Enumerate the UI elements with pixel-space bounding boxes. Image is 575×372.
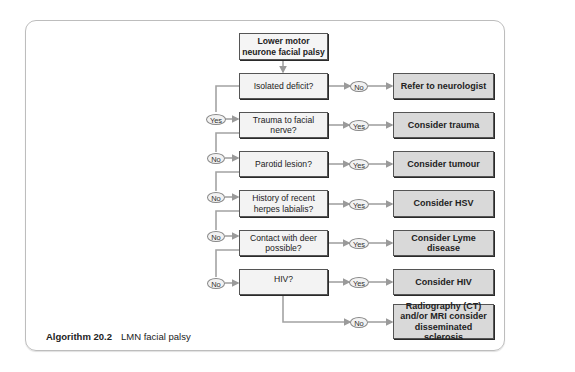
question-isolated-deficit: Isolated deficit? xyxy=(239,73,328,99)
question-label: Parotid lesion? xyxy=(255,159,312,170)
answer-yes-pill: Yes xyxy=(349,238,369,249)
answer-yes-pill: Yes xyxy=(349,277,369,288)
outcome-label: Consider trauma xyxy=(408,120,480,131)
outcome-label: Consider tumour xyxy=(407,159,480,170)
outcome-lyme-disease: Consider Lyme disease xyxy=(393,230,494,256)
answer-no-pill: No xyxy=(350,81,368,92)
question-label: HIV? xyxy=(274,274,293,285)
outcome-hiv: Consider HIV xyxy=(393,269,494,295)
outcome-trauma: Consider trauma xyxy=(393,112,494,138)
answer-yes-pill: Yes xyxy=(206,114,226,125)
outcome-label: Refer to neurologist xyxy=(401,81,487,92)
answer-no-pill: No xyxy=(350,317,368,328)
outcome-hsv: Consider HSV xyxy=(393,190,494,217)
outcome-refer-neurologist: Refer to neurologist xyxy=(393,73,494,99)
outcome-label: Radiography (CT) and/or MRI consider dis… xyxy=(397,301,490,343)
figure-caption: Algorithm 20.2LMN facial palsy xyxy=(46,331,191,342)
question-deer-contact: Contact with deer possible? xyxy=(239,230,328,256)
answer-no-pill: No xyxy=(207,192,225,203)
outcome-label: Consider Lyme disease xyxy=(394,233,493,254)
question-hiv: HIV? xyxy=(239,269,328,295)
outcome-tumour: Consider tumour xyxy=(393,151,494,177)
outcome-label: Consider HSV xyxy=(413,198,473,209)
answer-yes-pill: Yes xyxy=(349,159,369,170)
caption-label: Algorithm 20.2 xyxy=(46,331,112,342)
answer-yes-pill: Yes xyxy=(349,120,369,131)
answer-no-pill: No xyxy=(207,231,225,242)
outcome-label: Consider HIV xyxy=(415,277,472,288)
question-label: Isolated deficit? xyxy=(254,81,314,92)
caption-text: LMN facial palsy xyxy=(121,331,191,342)
question-label: Trauma to facial nerve? xyxy=(240,115,327,136)
answer-no-pill: No xyxy=(207,153,225,164)
answer-no-pill: No xyxy=(207,278,225,289)
question-parotid-lesion: Parotid lesion? xyxy=(239,151,328,177)
question-label: Contact with deer possible? xyxy=(248,233,319,254)
question-label: History of recent herpes labialis? xyxy=(246,193,321,214)
answer-yes-pill: Yes xyxy=(349,199,369,210)
question-herpes-labialis: History of recent herpes labialis? xyxy=(239,190,328,217)
start-node: Lower motor neurone facial palsy xyxy=(239,33,328,60)
question-trauma: Trauma to facial nerve? xyxy=(239,112,328,138)
outcome-imaging: Radiography (CT) and/or MRI consider dis… xyxy=(393,304,494,339)
start-node-label: Lower motor neurone facial palsy xyxy=(240,36,327,57)
